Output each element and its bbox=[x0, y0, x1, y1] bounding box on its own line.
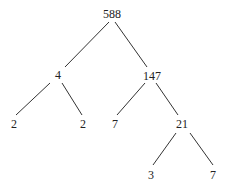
node-root: 588 bbox=[103, 7, 121, 21]
edge-4-2b bbox=[62, 83, 82, 115]
edge-21-3 bbox=[153, 133, 176, 165]
edge-21-7 bbox=[190, 133, 213, 165]
edge-147-21 bbox=[156, 83, 178, 115]
node-rr-right: 7 bbox=[210, 168, 216, 182]
node-right: 147 bbox=[143, 69, 161, 83]
node-right-right: 21 bbox=[176, 117, 188, 131]
node-left-left: 2 bbox=[11, 117, 17, 131]
node-left-right: 2 bbox=[80, 117, 86, 131]
edges bbox=[16, 22, 213, 165]
edge-588-147 bbox=[115, 22, 147, 67]
factor-tree: 588 4 147 2 2 7 21 3 7 bbox=[0, 0, 231, 188]
edge-4-2a bbox=[16, 83, 50, 115]
edge-147-7 bbox=[117, 83, 145, 115]
nodes: 588 4 147 2 2 7 21 3 7 bbox=[11, 7, 216, 182]
node-right-left: 7 bbox=[112, 117, 118, 131]
edge-588-4 bbox=[65, 22, 109, 67]
node-rr-left: 3 bbox=[148, 168, 154, 182]
node-left: 4 bbox=[55, 68, 61, 82]
